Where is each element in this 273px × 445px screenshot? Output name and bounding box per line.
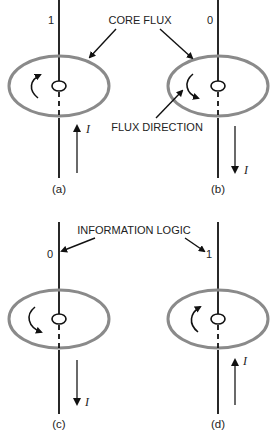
core-b-hole [211,81,225,91]
core-a-group: I 1 (a) [9,0,109,195]
core-flux-pointer-b [160,29,192,58]
flux-direction-label: FLUX DIRECTION [111,121,203,133]
current-label-d: I [242,354,248,368]
current-label-a: I [85,122,91,136]
caption-b: (b) [211,183,225,195]
caption-d: (d) [211,418,225,430]
bit-label-c: 0 [47,248,53,260]
flux-direction-arrow-d [191,307,200,332]
core-c-group: I 0 (c) [9,222,109,430]
flux-direction-arrow-b [187,74,198,98]
core-flux-label: CORE FLUX [109,14,173,26]
information-logic-label: INFORMATION LOGIC [77,224,191,236]
core-b-group: I 0 (b) [168,0,268,195]
magnetic-core-diagram: I 1 (a) I 0 (b) CORE FLUX FLUX DIRECTION… [0,0,273,445]
information-logic-pointer-d [185,238,204,251]
caption-c: (c) [52,418,66,430]
core-d-hole [211,314,225,324]
core-d-group: I 1 (d) [168,222,268,430]
information-logic-pointer-c [62,238,95,251]
core-flux-pointer-a [90,29,116,57]
bit-label-a: 1 [48,14,54,26]
current-label-c: I [84,395,90,409]
caption-a: (a) [52,183,66,195]
flux-direction-arrow-a [31,75,40,98]
bit-label-b: 0 [207,14,213,26]
bit-label-d: 1 [206,248,212,260]
core-c-hole [52,314,66,324]
core-a-hole [52,81,66,91]
current-label-b: I [243,163,249,177]
flux-direction-arrow-c [29,307,41,332]
